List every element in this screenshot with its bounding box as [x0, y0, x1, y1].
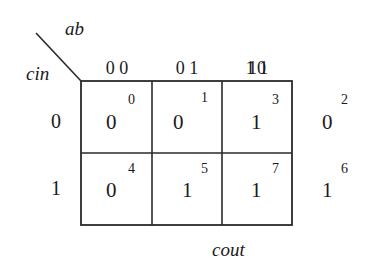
- row-header-1: 1: [51, 178, 61, 198]
- column-header-01: 0 1: [152, 59, 222, 77]
- cell-value-m5: 1: [182, 180, 193, 201]
- cell-value-m7: 1: [251, 180, 262, 201]
- cell-value-m1: 0: [173, 112, 184, 133]
- cell-value-m3: 1: [251, 112, 262, 133]
- row-header-0: 0: [51, 111, 61, 131]
- column-header-10: 10: [222, 59, 292, 77]
- kmap-title-cout: cout: [212, 240, 245, 259]
- cell-index-m7: 7: [272, 162, 279, 176]
- cell-index-m4: 4: [128, 162, 135, 176]
- cell-value-m4: 0: [106, 180, 117, 201]
- cell-index-m5: 5: [201, 162, 208, 176]
- column-variable-label: ab: [65, 19, 84, 38]
- column-header-00: 0 0: [82, 59, 152, 77]
- cell-index-m3: 3: [272, 93, 279, 107]
- kmap-grid-lines: [0, 0, 372, 273]
- cell-index-m0: 0: [128, 93, 135, 107]
- cell-value-m6: 1: [322, 180, 333, 201]
- cell-value-m2: 0: [322, 112, 333, 133]
- cell-value-m0: 0: [106, 112, 117, 133]
- row-variable-label: cin: [26, 64, 49, 83]
- cell-index-m1: 1: [201, 91, 208, 105]
- cell-index-m2: 2: [341, 93, 348, 107]
- cell-index-m6: 6: [341, 162, 348, 176]
